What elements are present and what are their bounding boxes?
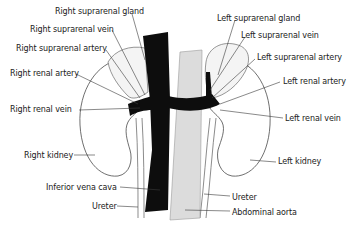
label-right-kidney: Right kidney — [24, 151, 73, 160]
label-left-kidney: Left kidney — [278, 157, 321, 166]
label-right-renal-artery: Right renal artery — [10, 69, 79, 78]
label-right-suprarenal-vein: Right suprarenal vein — [30, 25, 114, 34]
label-inferior-vena-cava: Inferior vena cava — [46, 183, 117, 192]
label-left-suprarenal-artery: Left suprarenal artery — [257, 53, 342, 62]
label-ureter-right: Ureter — [92, 202, 117, 211]
right-suprarenal-gland-shape — [108, 47, 148, 98]
label-right-renal-vein: Right renal vein — [10, 105, 72, 114]
left-ureter-shape — [200, 118, 216, 218]
label-ureter-left: Ureter — [232, 193, 257, 202]
right-ureter-shape — [136, 118, 144, 218]
label-left-renal-vein: Left renal vein — [285, 114, 341, 123]
label-abdominal-aorta: Abdominal aorta — [232, 208, 297, 217]
abdominal-aorta-shape — [170, 50, 202, 220]
label-left-suprarenal-vein: Left suprarenal vein — [241, 31, 319, 40]
label-left-suprarenal-gland: Left suprarenal gland — [217, 14, 300, 23]
label-left-renal-artery: Left renal artery — [283, 77, 346, 86]
label-right-suprarenal-gland: Right suprarenal gland — [55, 7, 144, 16]
inferior-vena-cava-shape — [143, 32, 170, 212]
right-renal-vein-shape — [128, 96, 152, 116]
label-right-suprarenal-artery: Right suprarenal artery — [16, 44, 107, 53]
anatomy-diagram: Right suprarenal gland Right suprarenal … — [0, 0, 351, 226]
